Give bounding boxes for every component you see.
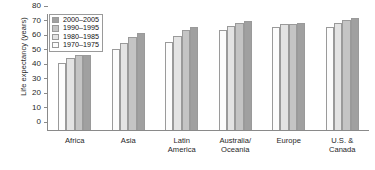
bar-group: Latin America bbox=[165, 14, 198, 130]
y-axis-tick: 10 bbox=[32, 104, 48, 112]
bar bbox=[289, 24, 297, 130]
y-axis-tick: 60 bbox=[32, 31, 48, 39]
x-axis-tick-label: Australia/ Oceania bbox=[219, 136, 251, 154]
bar bbox=[165, 42, 173, 130]
bar bbox=[297, 23, 305, 130]
life-expectancy-bar-chart: Life expectancy (years) 0102030405060708… bbox=[0, 0, 375, 170]
bar-group-bars bbox=[326, 14, 359, 130]
bar-group: U.S. & Canada bbox=[326, 14, 359, 130]
y-axis-tick-label: 40 bbox=[32, 60, 41, 68]
bar bbox=[182, 30, 190, 130]
bar bbox=[58, 63, 66, 130]
bar bbox=[272, 27, 280, 130]
y-axis-tick-label: 30 bbox=[32, 75, 41, 83]
x-axis-tick-label: Africa bbox=[65, 136, 84, 145]
bar bbox=[334, 23, 342, 130]
bar-group-bars bbox=[272, 14, 305, 130]
y-axis-tick-label: 50 bbox=[32, 46, 41, 54]
bar bbox=[75, 55, 83, 130]
y-axis-tick-label: 0 bbox=[37, 118, 41, 126]
legend-label: 1970–1975 bbox=[63, 41, 99, 49]
bar bbox=[112, 49, 120, 130]
bar bbox=[66, 58, 74, 131]
x-axis-tick-label: Europe bbox=[276, 136, 301, 145]
bar bbox=[128, 37, 136, 130]
bar bbox=[227, 26, 235, 130]
bar bbox=[342, 20, 350, 130]
y-axis-tick: 50 bbox=[32, 46, 48, 54]
x-axis-tick-label: Asia bbox=[121, 136, 136, 145]
bar bbox=[137, 33, 145, 130]
bar-group-bars bbox=[165, 14, 198, 130]
bar bbox=[83, 55, 91, 130]
legend-swatch bbox=[52, 25, 59, 31]
bar bbox=[235, 23, 243, 130]
y-axis-tick: 80 bbox=[32, 2, 48, 10]
y-axis-tick: 20 bbox=[32, 89, 48, 97]
chart-legend: 2000–20051990–19951980–19851970–1975 bbox=[49, 14, 103, 52]
y-axis-tick: 40 bbox=[32, 60, 48, 68]
bar bbox=[219, 30, 227, 130]
bar-group-bars bbox=[219, 14, 252, 130]
y-axis-tick-label: 60 bbox=[32, 31, 41, 39]
y-axis-tick-label: 70 bbox=[32, 17, 41, 25]
y-axis-title: Life expectancy (years) bbox=[19, 0, 28, 117]
legend-item: 1970–1975 bbox=[52, 41, 99, 49]
bar bbox=[173, 36, 181, 130]
y-axis-tick: 30 bbox=[32, 75, 48, 83]
legend-swatch bbox=[52, 17, 59, 23]
x-axis-tick-label: Latin America bbox=[168, 136, 196, 154]
bar-group: Europe bbox=[272, 14, 305, 130]
y-axis-tick-label: 80 bbox=[32, 2, 41, 10]
bar bbox=[280, 24, 288, 130]
y-axis-tick-label: 20 bbox=[32, 89, 41, 97]
bar-group-bars bbox=[112, 14, 145, 130]
y-axis-tick: 70 bbox=[32, 17, 48, 25]
bar-group: Australia/ Oceania bbox=[219, 14, 252, 130]
bar bbox=[120, 43, 128, 130]
bar bbox=[326, 27, 334, 130]
y-axis-tick-label: 10 bbox=[32, 104, 41, 112]
legend-swatch bbox=[52, 34, 59, 40]
bar bbox=[190, 27, 198, 130]
legend-swatch bbox=[52, 42, 59, 48]
bar bbox=[351, 18, 359, 130]
y-axis-tick-mark bbox=[44, 6, 48, 7]
bar-group: Asia bbox=[112, 14, 145, 130]
x-axis-tick-label: U.S. & Canada bbox=[329, 136, 356, 154]
y-axis-tick: 0 bbox=[37, 118, 48, 126]
bar bbox=[244, 21, 252, 130]
